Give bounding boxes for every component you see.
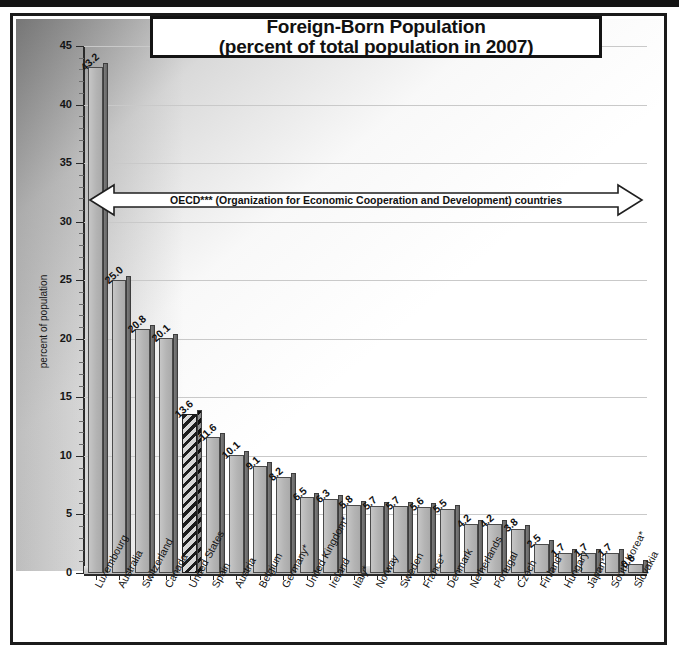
bar-value-label: 25.0 xyxy=(102,264,125,287)
category-label: Czech xyxy=(514,584,525,590)
category-label: Canada xyxy=(162,584,173,590)
oecd-range-arrow: OECD*** (Organization for Economic Coope… xyxy=(88,182,644,218)
category-label: Norway xyxy=(373,584,384,590)
category-label: Spain xyxy=(209,584,220,590)
bar-value-label: 5.8 xyxy=(336,492,355,511)
bar-value-label: 4.2 xyxy=(477,511,496,530)
category-label: Italy* xyxy=(350,584,361,590)
bar-value-label: 5.5 xyxy=(430,496,449,515)
category-label: Denmark xyxy=(444,584,455,590)
bar-value-label: 8.2 xyxy=(266,464,285,483)
chart-title: Foreign-Born Population (percent of tota… xyxy=(150,16,602,58)
bar-value-label: 5.7 xyxy=(383,494,402,513)
category-label: Japan* xyxy=(584,584,595,590)
category-label: Sweden xyxy=(397,584,408,590)
category-label: Austria xyxy=(232,584,243,590)
category-label: Hungary xyxy=(561,584,572,590)
bar-value-label: 6.3 xyxy=(313,487,332,506)
chart-title-line-1: Foreign-Born Population xyxy=(266,17,485,37)
chart-screenshot: 051015202530354045 43.2Luxembourg25.0Aus… xyxy=(0,0,679,664)
category-label: Finland xyxy=(537,584,548,590)
bar-value-label: 9.1 xyxy=(243,454,262,473)
category-label: France* xyxy=(420,584,431,590)
bar-value-label: 4.2 xyxy=(454,511,473,530)
category-label: Portugal xyxy=(491,584,502,590)
category-label: United States xyxy=(186,584,197,590)
category-label: Netherlands xyxy=(467,584,478,590)
category-labels: 43.2Luxembourg25.0Australia20.8Switzerla… xyxy=(0,0,679,664)
category-label: South Korea* xyxy=(608,584,619,590)
category-label: Ireland xyxy=(326,584,337,590)
bar-value-label: 20.1 xyxy=(149,321,172,344)
oecd-range-label: OECD*** (Organization for Economic Coope… xyxy=(88,182,644,218)
bar-value-label: 3.8 xyxy=(501,516,520,535)
bar-value-label: 2.5 xyxy=(524,531,543,550)
bar-value-label: 20.8 xyxy=(125,313,148,336)
category-label: United Kingdom* xyxy=(303,584,314,590)
bar-value-label: 6.5 xyxy=(290,484,309,503)
category-label: Australia xyxy=(115,584,126,590)
bar-value-label: 5.6 xyxy=(407,495,426,514)
bar-value-label: 13.6 xyxy=(172,397,195,420)
bar-value-label: 5.7 xyxy=(360,494,379,513)
category-label: Belgium xyxy=(256,584,267,590)
chart-title-line-2: (percent of total population in 2007) xyxy=(219,37,534,57)
bar-value-label: 11.6 xyxy=(196,421,219,443)
category-label: Luxembourg xyxy=(92,584,103,590)
category-label: Germany* xyxy=(279,584,290,590)
bar-value-label: 43.2 xyxy=(78,50,101,73)
category-label: Slovakia xyxy=(631,584,642,590)
y-axis-title: percent of population xyxy=(34,250,52,400)
y-axis-title-text: percent of population xyxy=(38,247,49,397)
category-label: Switzerland xyxy=(139,584,150,590)
bar-value-label: 10.1 xyxy=(219,438,242,461)
